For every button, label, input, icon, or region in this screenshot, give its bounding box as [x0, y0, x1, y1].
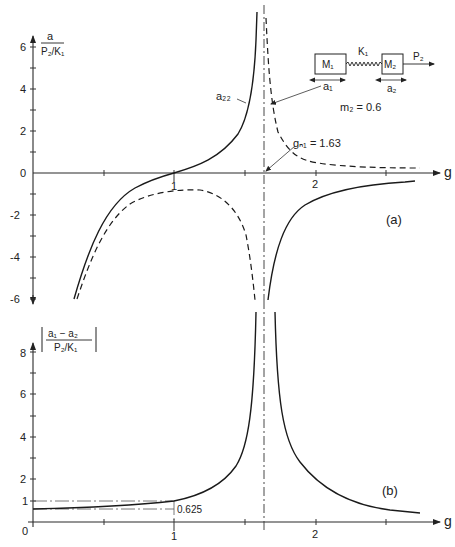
panel-a-xtick-1: 1 — [171, 180, 177, 192]
panel-b-ytick-8: 8 — [20, 347, 26, 359]
panel-a-curve-a1-right — [266, 18, 420, 168]
mass-m2-label: M₂ — [384, 59, 396, 70]
panel-a-curve-a22-right — [268, 181, 415, 300]
panel-b-xtick-1: 1 — [171, 530, 177, 542]
figure: 6 4 2 0 -2 -4 -6 1 2 g a P₂/K₁ — [0, 0, 455, 547]
spring-k1-label: K₁ — [358, 46, 369, 57]
panel-a-ytick-neg6: -6 — [10, 293, 20, 305]
panel-a-y-label-numerator: a — [47, 30, 54, 42]
panel-a-ytick-0: 0 — [20, 167, 26, 179]
panel-b-ytick-6: 6 — [20, 388, 26, 400]
panel-a-ytick-4: 4 — [20, 83, 26, 95]
panel-a-label-a22: a₂₂ — [216, 90, 231, 102]
panel-b-ytick-0: 0 — [22, 525, 28, 537]
mass-m1-label: M₁ — [322, 59, 334, 70]
panel-a-ytick-2: 2 — [20, 125, 26, 137]
panel-a-label-a1: a₁ — [323, 80, 333, 92]
panel-b-annotation-0625: 0.625 — [177, 504, 202, 515]
panel-a-leader-a1 — [271, 86, 321, 104]
panel-a-curve-a22-left — [74, 12, 257, 299]
panel-a-panel-label: (a) — [386, 212, 402, 227]
panel-a-ytick-neg4: -4 — [10, 251, 20, 263]
panel-b-y-label-numerator: a₁ − a₂ — [48, 328, 78, 339]
panel-b-ytick-2: 2 — [20, 473, 26, 485]
panel-a-leader-a22 — [237, 99, 246, 103]
panel-a-xtick-2: 2 — [312, 178, 318, 190]
panel-b-x-ticks — [104, 519, 386, 531]
disp-a2-label: a₂ — [387, 83, 397, 94]
panel-a-x-ticks — [104, 170, 386, 182]
panel-b-y-label-denominator: P₂/K₁ — [54, 342, 78, 353]
panel-a-ytick-6: 6 — [20, 41, 26, 53]
panel-a-leader-resonance — [266, 146, 295, 171]
panel-b-panel-label: (b) — [382, 483, 398, 498]
panel-a-label-resonance: gₙ₁ = 1.63 — [293, 137, 341, 149]
panel-a-x-label: g — [444, 164, 452, 180]
panel-b-ytick-4: 4 — [20, 431, 26, 443]
panel-a-label-mass-ratio: m₂ = 0.6 — [340, 101, 381, 113]
panel-a-curve-a1-left — [77, 190, 255, 300]
panel-b-curve-right — [275, 312, 420, 513]
panel-b-ytick-1: 1 — [22, 495, 28, 507]
panel-b: 8 6 4 2 1 0 1 2 g a₁ − a₂ P₂/K₁ 0.625 — [20, 300, 452, 542]
spring-k1 — [346, 62, 382, 66]
panel-a-y-label-denominator: P₂/K₁ — [41, 46, 65, 57]
panel-b-xtick-2: 2 — [312, 528, 318, 540]
panel-a: 6 4 2 0 -2 -4 -6 1 2 g a P₂/K₁ — [10, 5, 452, 305]
force-p2-label: P₂ — [413, 51, 424, 62]
panel-b-x-label: g — [444, 513, 452, 529]
panel-a-ytick-neg2: -2 — [10, 209, 20, 221]
